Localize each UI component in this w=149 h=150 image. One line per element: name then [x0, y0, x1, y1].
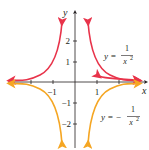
- y-tick-label-m1: −1: [61, 98, 71, 108]
- x-tick-label-1: 1: [95, 87, 100, 97]
- svg-text:2: 2: [130, 55, 133, 61]
- label-negative: y = − 1 x 2: [100, 105, 140, 127]
- y-axis-label: y: [62, 7, 68, 18]
- svg-text:x: x: [128, 118, 133, 127]
- svg-text:1: 1: [125, 44, 129, 53]
- x-axis-label: x: [141, 85, 147, 96]
- svg-text:y = −: y = −: [100, 112, 122, 122]
- svg-text:1: 1: [131, 105, 135, 114]
- svg-text:y =: y =: [103, 51, 116, 61]
- label-positive: y = 1 x 2: [103, 44, 133, 66]
- y-tick-label-m2: −2: [61, 119, 71, 129]
- graph: 2 1 −1 −2 −1 1 x y y = 1 x 2 y = − 1 x 2: [0, 0, 149, 150]
- curve-positive-left: [11, 22, 62, 81]
- y-tick-label-2: 2: [66, 36, 71, 46]
- svg-text:x: x: [122, 57, 127, 66]
- y-tick-label-1: 1: [66, 57, 71, 67]
- svg-text:2: 2: [136, 116, 139, 122]
